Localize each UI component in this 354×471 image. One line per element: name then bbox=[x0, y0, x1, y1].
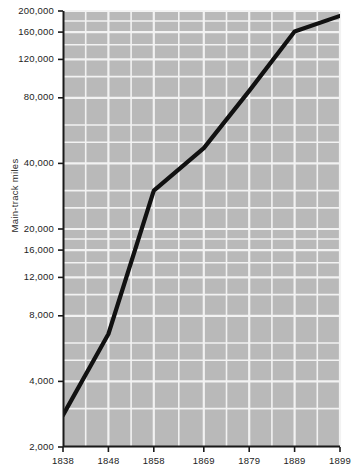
x-tick-label: 1889 bbox=[271, 455, 319, 466]
x-tick-label: 1869 bbox=[180, 455, 228, 466]
chart-plot-area bbox=[0, 0, 354, 471]
y-tick-label: 80,000 bbox=[0, 91, 54, 102]
y-tick-label: 120,000 bbox=[0, 53, 54, 64]
y-tick-label: 40,000 bbox=[0, 157, 54, 168]
x-tick-label: 1899 bbox=[316, 455, 354, 466]
y-tick-label: 200,000 bbox=[0, 5, 54, 16]
x-tick-label: 1838 bbox=[39, 455, 87, 466]
y-tick-label: 8,000 bbox=[0, 309, 54, 320]
y-tick-label: 16,000 bbox=[0, 244, 54, 255]
y-tick-label: 4,000 bbox=[0, 375, 54, 386]
gridlines bbox=[63, 11, 340, 447]
y-tick-label: 2,000 bbox=[0, 441, 54, 452]
x-tick-label: 1848 bbox=[84, 455, 132, 466]
x-tick-label: 1879 bbox=[225, 455, 273, 466]
y-tick-label: 160,000 bbox=[0, 26, 54, 37]
y-tick-label: 12,000 bbox=[0, 271, 54, 282]
y-axis-tick-marks bbox=[58, 11, 63, 447]
x-tick-label: 1858 bbox=[130, 455, 178, 466]
railroad-mileage-chart: Main-track miles 2,0004,0008,00012,00016… bbox=[0, 0, 354, 471]
y-tick-label: 20,000 bbox=[0, 223, 54, 234]
